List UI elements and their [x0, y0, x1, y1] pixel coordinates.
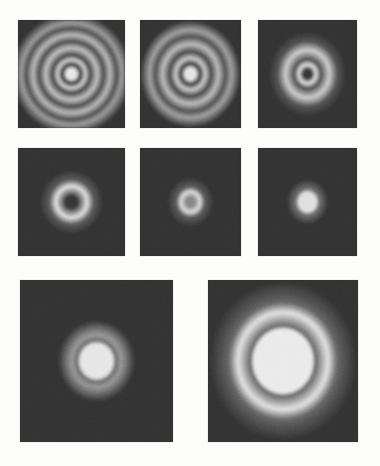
panel-image-5 — [140, 148, 241, 256]
film-grain-5 — [140, 148, 241, 256]
film-grain-7 — [20, 280, 173, 442]
panel-image-6 — [258, 148, 357, 256]
film-grain-4 — [18, 148, 125, 256]
panel-image-7 — [20, 280, 173, 442]
film-grain-8 — [208, 280, 358, 442]
figure-root — [0, 0, 380, 466]
diffraction-panel-7 — [20, 280, 173, 442]
diffraction-panel-1 — [18, 20, 125, 128]
panel-image-8 — [208, 280, 358, 442]
film-grain-1 — [18, 20, 125, 128]
diffraction-panel-8 — [208, 280, 358, 442]
panel-image-4 — [18, 148, 125, 256]
film-grain-6 — [258, 148, 357, 256]
diffraction-panel-6 — [258, 148, 357, 256]
panel-image-3 — [258, 20, 357, 128]
panel-image-1 — [18, 20, 125, 128]
diffraction-panel-4 — [18, 148, 125, 256]
film-grain-2 — [140, 20, 241, 128]
panel-image-2 — [140, 20, 241, 128]
diffraction-panel-3 — [258, 20, 357, 128]
film-grain-3 — [258, 20, 357, 128]
diffraction-panel-5 — [140, 148, 241, 256]
diffraction-panel-2 — [140, 20, 241, 128]
